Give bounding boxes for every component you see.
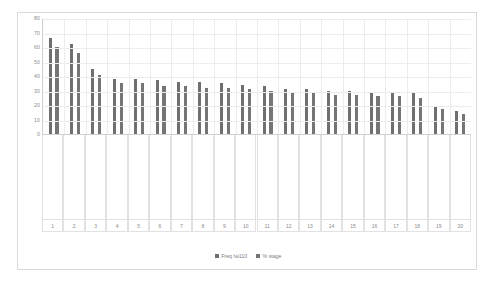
bar [291, 93, 294, 134]
bar [98, 75, 101, 134]
gridline-vertical [193, 19, 194, 134]
index-number: 8 [192, 219, 213, 232]
bar [376, 96, 379, 134]
bar [312, 93, 315, 134]
gridline-vertical [150, 19, 151, 134]
bar [248, 89, 251, 134]
bar [398, 96, 401, 134]
bar [370, 92, 373, 134]
category-label-cell: Lack of use of Technology [192, 135, 213, 219]
chart-frame: 01020304050607080 Lack of Common Develop… [17, 12, 477, 270]
bar [205, 88, 208, 134]
category-label-cell: Lack of Reliability [85, 135, 106, 219]
index-number: 13 [299, 219, 320, 232]
index-number: 3 [85, 219, 106, 232]
legend-label: % stage [263, 253, 282, 259]
category-label-cell: Lack of effectiveness [407, 135, 428, 219]
index-number: 2 [63, 219, 84, 232]
gridline-vertical [321, 19, 322, 134]
gridline-vertical [343, 19, 344, 134]
bar [348, 91, 351, 135]
bar [419, 98, 422, 134]
bar [327, 91, 330, 135]
category-label-cell: Lack of Knowledge for High Skilled Resou… [214, 135, 235, 219]
category-label-cell: Lack of Assessment Issues [278, 135, 299, 219]
category-label-cell: Fault Tolerance [428, 135, 449, 219]
index-number: 7 [171, 219, 192, 232]
legend-item[interactable]: Freq №110 [215, 253, 247, 259]
y-axis-tick: 0 [37, 132, 40, 137]
bar [227, 88, 230, 134]
gridline-vertical [278, 19, 279, 134]
bar [441, 109, 444, 134]
gridline-vertical [236, 19, 237, 134]
category-label-cell: Communication Workflows [342, 135, 363, 219]
bar [412, 93, 415, 134]
index-number: 10 [235, 219, 256, 232]
y-axis-tick: 10 [34, 118, 40, 123]
bar [263, 86, 266, 134]
legend-item[interactable]: % stage [256, 253, 281, 259]
category-label-cell: Market expansion Growth [364, 135, 385, 219]
category-label-cell: Lack of Trust [321, 135, 342, 219]
category-label-cell: Lack of Common Development [42, 135, 63, 219]
category-label-band: Lack of Common DevelopmentLack of Poor A… [42, 135, 471, 219]
bar [284, 89, 287, 134]
index-number: 1 [42, 219, 63, 232]
index-number: 18 [407, 219, 428, 232]
index-number: 19 [428, 219, 449, 232]
gridline-vertical [257, 19, 258, 134]
bar [162, 86, 165, 134]
index-number: 17 [385, 219, 406, 232]
index-number: 15 [342, 219, 363, 232]
index-number: 5 [128, 219, 149, 232]
chart-figure: 01020304050607080 Lack of Common Develop… [0, 0, 494, 284]
bar [269, 91, 272, 135]
gridline-vertical [450, 19, 451, 134]
index-number: 12 [278, 219, 299, 232]
category-label-cell: Cost Issues [171, 135, 192, 219]
bar [198, 82, 201, 134]
bar [455, 111, 458, 134]
y-axis-tick: 20 [34, 103, 40, 108]
y-axis: 01020304050607080 [18, 19, 42, 135]
category-label-cell: Lack of Privacy [235, 135, 256, 219]
index-number: 6 [149, 219, 170, 232]
index-number: 20 [450, 219, 471, 232]
category-label-cell: Deliverance Issue [450, 135, 471, 219]
plot-area [42, 19, 471, 135]
gridline-vertical [407, 19, 408, 134]
gridline-vertical [86, 19, 87, 134]
legend-label: Freq №110 [221, 253, 247, 259]
index-number-band: 1234567891011121314151617181920 [42, 219, 471, 232]
y-axis-tick: 70 [34, 31, 40, 36]
index-number: 11 [257, 219, 278, 232]
bar [355, 95, 358, 134]
y-axis-tick: 50 [34, 60, 40, 65]
gridline-vertical [129, 19, 130, 134]
category-label-cell: Lack of Management Issues [128, 135, 149, 219]
bar [177, 82, 180, 134]
legend-swatch-icon [256, 254, 260, 258]
bar [305, 89, 308, 134]
bar [91, 69, 94, 134]
gridline-vertical [300, 19, 301, 134]
index-number: 4 [106, 219, 127, 232]
bar [77, 53, 80, 134]
gridline-vertical [107, 19, 108, 134]
index-number: 16 [364, 219, 385, 232]
legend-swatch-icon [215, 254, 219, 258]
bar [391, 92, 394, 134]
gridline-vertical [64, 19, 65, 134]
chart-legend: Freq №110% stage [18, 241, 478, 271]
index-number: 9 [214, 219, 235, 232]
gridline-vertical [428, 19, 429, 134]
gridline-vertical [171, 19, 172, 134]
gridline-vertical [385, 19, 386, 134]
category-label-cell: Lack of Development Issues [106, 135, 127, 219]
category-label-cell: Tradition Co-located Models [257, 135, 278, 219]
y-axis-tick: 60 [34, 45, 40, 50]
category-label-cell: Lack of Environment [149, 135, 170, 219]
bar [334, 95, 337, 134]
index-number: 14 [321, 219, 342, 232]
